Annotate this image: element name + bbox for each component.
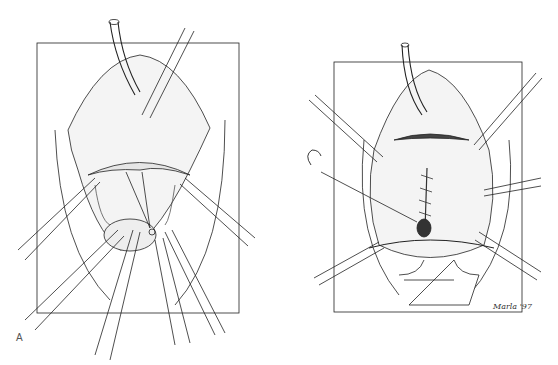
surgical-drawing-a [0,0,279,365]
panel-label-a: A [16,332,23,343]
artist-signature: Marla '97 [493,302,532,311]
panel-a-illustration: A [0,0,279,365]
